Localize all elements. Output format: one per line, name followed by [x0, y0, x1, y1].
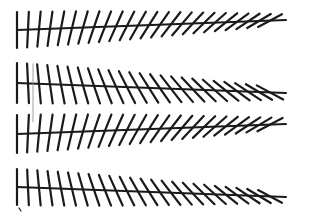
zollner-illusion-figure — [0, 0, 309, 224]
